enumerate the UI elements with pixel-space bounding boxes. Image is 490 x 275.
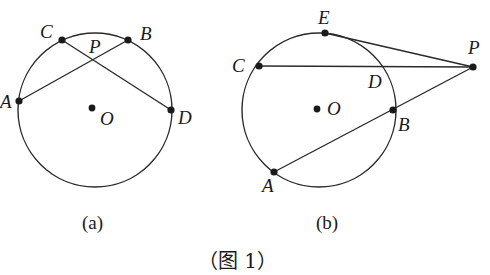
caption-a: (a) [82,212,103,234]
secant-cp [259,66,473,67]
chord-cd [62,40,171,110]
point-b [124,36,131,43]
point-b [389,106,396,113]
label-o: O [100,108,114,129]
point-c [58,36,65,43]
point-p [469,63,476,70]
label-c: C [232,55,245,76]
label-d: D [177,107,192,128]
point-o [314,106,321,113]
point-c [255,62,262,69]
label-a: A [260,175,274,196]
label-c: C [40,21,53,42]
label-p: P [88,36,101,57]
label-b: B [398,114,410,135]
chord-ab [19,40,128,101]
tangent-ep [325,33,473,67]
caption-b: (b) [316,212,338,234]
point-d [167,106,174,113]
figure-canvas: A B C D O P (a) A B C D E O P (b) （图 1） [0,0,490,275]
point-e [321,29,328,36]
label-p: P [467,37,480,58]
point-a [15,97,22,104]
panel-b: A B C D E O P (b) [232,7,480,234]
panel-a: A B C D O P (a) [0,21,192,234]
point-o [89,105,96,112]
label-a: A [0,91,12,112]
figure-title: （图 1） [198,249,277,273]
label-o: O [327,98,341,119]
label-d: D [367,71,382,92]
label-e: E [317,7,330,28]
label-b: B [140,23,152,44]
